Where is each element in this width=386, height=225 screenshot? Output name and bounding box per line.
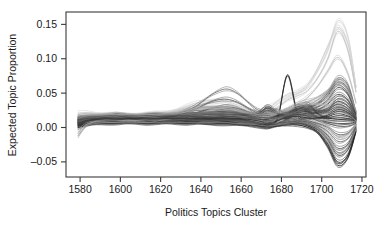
y-axis-title: Expected Topic Proportion	[6, 34, 18, 157]
x-tick-label-1600: 1600	[109, 183, 133, 195]
y-tick-label-0.15: 0.15	[37, 18, 58, 30]
series-line-topic-21	[78, 123, 356, 163]
series-line-topic-20	[78, 122, 356, 156]
spaghetti-line-chart: 15801600162016401660168017001720 –0.050.…	[0, 0, 386, 225]
y-tick-label--0.05: –0.05	[31, 155, 57, 167]
chart-series-group	[78, 18, 356, 167]
x-axis: 15801600162016401660168017001720	[68, 177, 373, 195]
y-tick-label-0.10: 0.10	[37, 52, 58, 64]
x-axis-title: Politics Topics Cluster	[165, 206, 267, 218]
x-tick-label-1640: 1640	[189, 183, 213, 195]
chart-figure: 15801600162016401660168017001720 –0.050.…	[0, 0, 386, 225]
x-tick-label-1580: 1580	[68, 183, 92, 195]
x-tick-label-1620: 1620	[149, 183, 173, 195]
x-tick-label-1700: 1700	[310, 183, 334, 195]
x-tick-label-1680: 1680	[270, 183, 294, 195]
x-tick-label-1720: 1720	[350, 183, 374, 195]
y-axis: –0.050.000.050.100.15	[31, 18, 66, 168]
y-tick-label-0.00: 0.00	[37, 121, 58, 133]
x-tick-label-1660: 1660	[229, 183, 253, 195]
y-tick-label-0.05: 0.05	[37, 87, 58, 99]
